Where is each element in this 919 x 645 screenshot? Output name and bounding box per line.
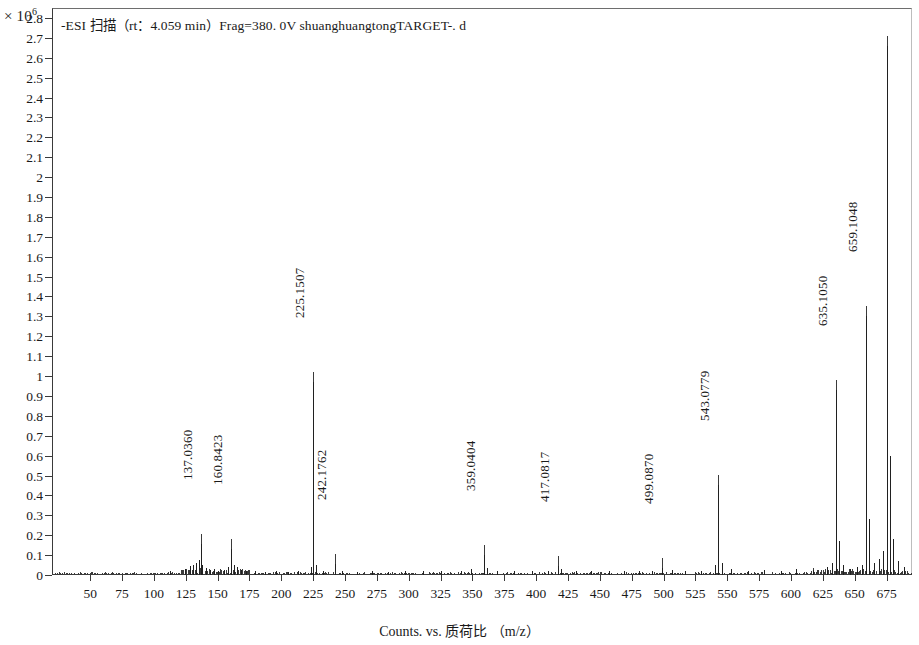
peak-label-connector — [231, 539, 232, 549]
chart-title: -ESI 扫描（rt：4.059 min）Frag=380. 0V shuang… — [61, 14, 466, 34]
x-axis-tick-mark — [249, 574, 250, 581]
spectrum-peak — [246, 571, 247, 575]
spectrum-peak — [357, 572, 358, 575]
spectrum-peak — [532, 571, 533, 575]
x-axis-tick-mark — [377, 574, 378, 581]
spectrum-peak — [715, 565, 716, 575]
spectrum-peak — [241, 570, 242, 575]
spectrum-peak — [423, 571, 424, 575]
spectrum-peak — [335, 564, 336, 575]
spectrum-peak — [591, 571, 592, 575]
spectrum-peak — [781, 571, 782, 575]
peak-label: 417.0817 — [538, 452, 552, 502]
x-axis-label: Counts. vs. 质荷比 （m/z） — [0, 620, 919, 640]
spectrum-peak — [827, 567, 828, 575]
spectrum-peak — [890, 456, 891, 575]
spectrum-peak — [722, 563, 723, 575]
spectrum-peak — [237, 567, 238, 575]
x-axis-tick-mark — [409, 574, 410, 581]
x-axis-tick-mark — [441, 574, 442, 581]
y-axis-tick-mark — [45, 257, 52, 258]
y-axis-tick-mark — [45, 38, 52, 39]
peak-label-connector — [866, 306, 867, 316]
spectrum-peak — [514, 571, 515, 575]
x-axis-tick-mark — [186, 574, 187, 581]
y-axis-tick-mark — [45, 535, 52, 536]
x-axis-tick-mark — [122, 574, 123, 581]
spectrum-peak — [471, 569, 472, 575]
y-axis-tick-mark — [45, 137, 52, 138]
y-axis-tick-mark — [45, 277, 52, 278]
peak-label-connector — [718, 475, 719, 485]
spectrum-peak — [764, 570, 765, 575]
y-axis-tick-mark — [45, 476, 52, 477]
spectrum-peak — [911, 573, 912, 575]
spectrum-peak — [796, 569, 797, 575]
spectrum-peak — [185, 569, 186, 575]
spectrum-peak — [206, 568, 207, 575]
spectrum-peak — [276, 571, 277, 575]
spectrum-peak — [813, 570, 814, 575]
spectrum-peak — [561, 569, 562, 575]
spectrum-peak — [201, 544, 202, 575]
spectrum-peak — [196, 563, 197, 575]
peak-label-connector — [836, 380, 837, 390]
spectrum-peak — [832, 563, 833, 575]
x-axis-tick-mark — [823, 574, 824, 581]
spectrum-peak — [323, 571, 324, 575]
spectrum-peak — [639, 571, 640, 575]
y-axis-tick-mark — [45, 296, 52, 297]
spectrum-peak — [199, 560, 200, 575]
peak-label: 659.1048 — [846, 202, 860, 252]
spectrum-peak — [497, 571, 498, 575]
peak-label: 242.1762 — [315, 450, 329, 500]
y-axis-tick-mark — [45, 117, 52, 118]
spectrum-peak — [609, 571, 610, 575]
spectrum-peak — [836, 390, 837, 575]
peak-label: 543.0779 — [698, 371, 712, 421]
spectrum-peak — [662, 568, 663, 575]
x-axis-tick-mark — [887, 574, 888, 581]
y-axis-tick-mark — [45, 515, 52, 516]
y-axis-tick-mark — [45, 157, 52, 158]
x-axis-tick-mark — [218, 574, 219, 581]
y-axis-tick-mark — [45, 336, 52, 337]
spectrum-peak — [879, 559, 880, 575]
peak-label: 359.0404 — [464, 441, 478, 491]
spectrum-peak — [731, 569, 732, 575]
y-axis-tick-mark — [45, 396, 52, 397]
spectrum-peak — [652, 571, 653, 575]
spectrum-peak — [484, 555, 485, 575]
spectrum-peak — [288, 572, 289, 575]
x-axis-tick-mark — [855, 574, 856, 581]
spectrum-peak — [218, 571, 219, 575]
peak-label: 499.0870 — [642, 454, 656, 504]
spectrum-peak — [231, 549, 232, 575]
spectrum-peak — [624, 571, 625, 575]
spectrum-peak — [701, 571, 702, 575]
spectrum-peak — [298, 571, 299, 575]
y-axis-tick-mark — [45, 316, 52, 317]
y-axis-tick-mark — [45, 416, 52, 417]
spectrum-peak — [316, 565, 317, 575]
spectrum-peak — [898, 561, 899, 575]
y-axis-tick-mark — [45, 555, 52, 556]
spectrum-peak — [839, 541, 840, 575]
spectrum-peak — [887, 46, 888, 575]
spectrum-peak — [234, 565, 235, 575]
peak-label: 635.1050 — [816, 276, 830, 326]
spectrum-peak — [874, 563, 875, 575]
y-axis-tick-mark — [45, 237, 52, 238]
x-axis-tick-mark — [313, 574, 314, 581]
spectrum-peak — [193, 565, 194, 575]
x-axis-tick-mark — [791, 574, 792, 581]
spectrum-peak — [718, 485, 719, 575]
y-axis-tick-mark — [45, 18, 52, 19]
y-axis-tick-mark — [45, 575, 52, 576]
spectrum-trace — [52, 8, 912, 575]
x-axis-tick-mark — [154, 574, 155, 581]
spectrum-peak — [405, 571, 406, 575]
x-axis-tick-mark — [695, 574, 696, 581]
spectrum-peak — [576, 571, 577, 575]
x-axis-tick-mark — [281, 574, 282, 581]
